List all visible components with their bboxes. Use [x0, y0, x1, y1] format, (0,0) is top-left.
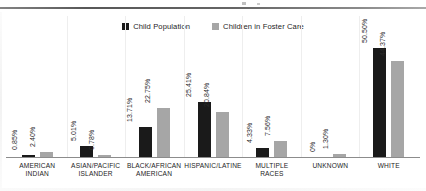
x-axis-tick-label: WHITE — [360, 162, 418, 179]
bar-group: 25.41%20.84% — [184, 38, 243, 157]
bar-value-label: 5.01% — [70, 121, 77, 141]
x-axis-tick-label: HISPANIC/LATINE — [183, 162, 242, 179]
bar-group: 5.01%0.78% — [67, 38, 126, 157]
plot-area: 0.85%2.40%5.01%0.78%13.71%22.75%25.41%20… — [8, 38, 418, 157]
bar-value-label: 0.78% — [88, 130, 95, 150]
bar-group: 0%1.30% — [301, 38, 360, 157]
bar-chart: Child Population Children in Foster Care… — [0, 12, 426, 180]
bar-value-label: 4.33% — [245, 122, 252, 142]
bar-slot: 0.78% — [98, 38, 111, 157]
bar-value-label: 22.75% — [144, 78, 151, 102]
bar-slot: 4.33% — [256, 38, 269, 157]
bar-value-label: 20.84% — [203, 83, 210, 107]
scan-artifact-bottom-edge — [0, 188, 426, 191]
x-axis-category-labels: AMERICAN INDIANASIAN/PACIFIC ISLANDERBLA… — [8, 162, 418, 179]
scan-artifact-top-line — [0, 7, 426, 9]
bar-slot: 22.75% — [157, 38, 170, 157]
bar-value-label: 7.56% — [263, 115, 270, 135]
bar-slot: 44.37% — [391, 38, 404, 157]
x-axis-tick-label: UNKNOWN — [301, 162, 359, 179]
bar-groups: 0.85%2.40%5.01%0.78%13.71%22.75%25.41%20… — [8, 38, 418, 157]
bar-value-label: 2.40% — [29, 126, 36, 146]
x-axis-tick-label: ASIAN/PACIFIC ISLANDER — [66, 162, 124, 179]
bar-value-label: 25.41% — [185, 73, 192, 97]
bar-group: 0.85%2.40% — [8, 38, 67, 157]
scan-artifact-speck — [257, 3, 260, 5]
legend-item-children-in-foster-care: Children in Foster Care — [212, 22, 304, 31]
bar-group: 13.71%22.75% — [125, 38, 184, 157]
bar-slot: 7.56% — [274, 38, 287, 157]
bar — [373, 48, 386, 157]
bar-value-label: 50.50% — [361, 18, 368, 42]
bar-value-label: 0% — [309, 142, 316, 152]
bar-value-label: 44.37% — [379, 32, 386, 56]
bar — [216, 112, 229, 157]
bar — [157, 108, 170, 157]
legend-label: Child Population — [133, 22, 190, 31]
bar-slot: 2.40% — [40, 38, 53, 157]
x-axis-tick-label: BLACK/AFRICAN AMERICAN — [125, 162, 183, 179]
scan-artifact-speck — [242, 2, 246, 5]
bar-group: 50.50%44.37% — [359, 38, 418, 157]
bar — [139, 127, 152, 157]
bar — [391, 61, 404, 157]
bar-value-label: 0.85% — [11, 130, 18, 150]
bar — [274, 141, 287, 157]
bar-value-label: 13.71% — [126, 98, 133, 122]
bar-slot: 1.30% — [333, 38, 346, 157]
x-axis-tick-label: AMERICAN INDIAN — [8, 162, 66, 179]
legend-swatch-icon — [212, 23, 219, 30]
bar-group: 4.33%7.56% — [242, 38, 301, 157]
legend-label: Children in Foster Care — [223, 22, 304, 31]
bar-slot: 20.84% — [216, 38, 229, 157]
x-axis-tick-label: MULTIPLE RACES — [243, 162, 301, 179]
x-axis-line — [6, 157, 420, 158]
bar — [256, 148, 269, 157]
bar-value-label: 1.30% — [322, 129, 329, 149]
legend-item-child-population: Child Population — [122, 22, 190, 31]
bar — [198, 102, 211, 157]
